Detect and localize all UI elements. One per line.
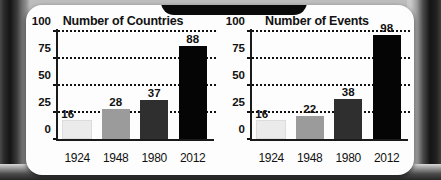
bar: 98: [373, 35, 401, 139]
y-axis-tick-label: 75: [232, 42, 245, 54]
bar: 16: [62, 120, 92, 139]
y-axis-tick-label: 25: [232, 96, 245, 108]
y-axis-tick-label: 50: [232, 69, 245, 81]
bar-chart-2: Number of Events025507510016223898192419…: [220, 5, 414, 175]
y-axis-tick-label: 100: [226, 15, 245, 27]
x-axis-tick-label: 1980: [329, 151, 368, 165]
bar-slot: 22: [291, 33, 330, 139]
screenshot-root: Number of Countries025507510016283788192…: [0, 0, 441, 180]
y-axis-tick-label: 75: [38, 42, 51, 54]
x-axis-tick-label: 2012: [174, 151, 213, 165]
y-axis-tick-label: 50: [38, 69, 51, 81]
charts-container: Number of Countries025507510016283788192…: [26, 5, 414, 175]
bar-value-label: 28: [109, 96, 122, 108]
top-tab-notch: [161, 5, 307, 15]
y-axis-line: [250, 29, 252, 141]
bar: 28: [102, 109, 130, 139]
bar-value-label: 98: [380, 22, 393, 34]
bar-value-label: 37: [148, 87, 161, 99]
bar-chart-1: Number of Countries025507510016283788192…: [26, 5, 220, 175]
x-axis-labels: 1924194819802012: [252, 151, 406, 165]
bar-slot: 88: [174, 33, 213, 139]
x-axis-tick-label: 2012: [368, 151, 407, 165]
bar-slot: 16: [252, 33, 291, 139]
x-axis-labels: 1924194819802012: [58, 151, 212, 165]
bar: 38: [334, 99, 362, 139]
bar: 88: [179, 46, 207, 139]
bar-slot: 98: [368, 33, 407, 139]
bar-slot: 28: [97, 33, 136, 139]
x-axis-line: [250, 139, 408, 141]
bar-value-label: 22: [303, 103, 316, 115]
x-axis-tick-label: 1948: [97, 151, 136, 165]
figure-panel: Number of Countries025507510016283788192…: [26, 5, 414, 175]
x-axis-tick-label: 1948: [291, 151, 330, 165]
y-axis-tick-label: 0: [239, 123, 245, 135]
y-axis-tick-label: 0: [45, 123, 51, 135]
plot-area: 025507510016223898: [250, 33, 406, 141]
y-axis-tick-label: 100: [32, 15, 51, 27]
bar: 37: [140, 100, 168, 139]
bar-value-label: 88: [186, 33, 199, 45]
x-axis-tick-label: 1924: [252, 151, 291, 165]
x-axis-line: [56, 139, 214, 141]
bar-slot: 16: [58, 33, 97, 139]
y-axis-tick-label: 25: [38, 96, 51, 108]
bar-group: 16223898: [252, 33, 406, 139]
bar-slot: 38: [329, 33, 368, 139]
bar-value-label: 16: [61, 108, 74, 120]
y-axis-line: [56, 29, 58, 141]
bar-group: 16283788: [58, 33, 212, 139]
bar-value-label: 38: [342, 86, 355, 98]
bar-slot: 37: [135, 33, 174, 139]
chart-title: Number of Countries: [26, 14, 220, 28]
bar: 16: [256, 120, 286, 139]
bar-value-label: 16: [255, 108, 268, 120]
bar: 22: [296, 116, 324, 139]
gridline: [58, 30, 216, 32]
x-axis-tick-label: 1980: [135, 151, 174, 165]
plot-area: 025507510016283788: [56, 33, 212, 141]
x-axis-tick-label: 1924: [58, 151, 97, 165]
